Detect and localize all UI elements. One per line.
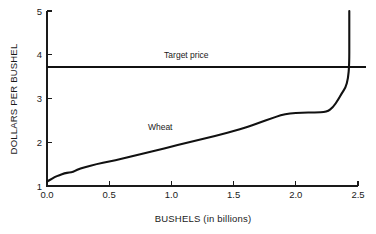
x-tick-label: 0.0	[40, 189, 53, 200]
x-tick-label: 2.5	[351, 189, 364, 200]
y-tick-label: 5	[37, 6, 42, 17]
y-tick-label: 3	[37, 93, 42, 104]
wheat-supply-chart: 0.00.51.01.52.02.5 12345 Target price Wh…	[0, 0, 376, 234]
y-tick-label: 4	[37, 49, 42, 60]
chart-background	[0, 0, 376, 234]
x-axis-title: BUSHELS (in billions)	[155, 213, 252, 224]
y-axis-title: DOLLARS PER BUSHEL	[8, 44, 19, 155]
y-tick-label: 2	[37, 137, 42, 148]
x-tick-label: 1.0	[165, 189, 178, 200]
x-tick-label: 0.5	[103, 189, 116, 200]
target-price-label: Target price	[164, 50, 209, 60]
x-tick-label: 2.0	[289, 189, 302, 200]
x-tick-label: 1.5	[227, 189, 240, 200]
chart-figure: 0.00.51.01.52.02.5 12345 Target price Wh…	[0, 0, 376, 234]
wheat-series-label: Wheat	[148, 122, 173, 132]
y-tick-label: 1	[37, 181, 42, 192]
